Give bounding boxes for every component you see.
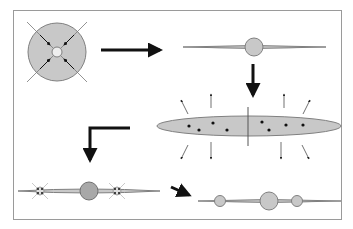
arrow-diagonal-icon <box>171 187 189 195</box>
stage-final-disk <box>198 192 341 210</box>
stage-collapse <box>27 22 87 82</box>
diagram-canvas <box>0 0 353 229</box>
arrow-elbow-icon <box>90 128 130 160</box>
stage-expanding-disk <box>157 94 341 159</box>
core-circle <box>52 47 62 57</box>
stage-flattened-disk <box>183 38 326 56</box>
stage-fragmenting-disk <box>18 182 160 200</box>
